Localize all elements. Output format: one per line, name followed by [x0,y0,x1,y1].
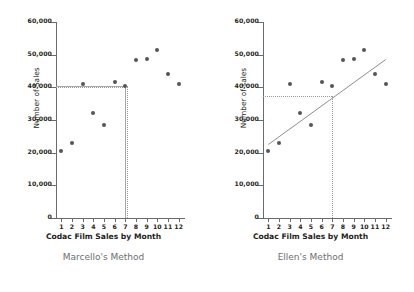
x-tick-label-12-left: 12 [172,223,186,230]
x-axis-title-left: Codac Film Sales by Month [0,232,207,241]
panel-marcellos-method: Number of Sales 0 10,000 20,000 30,000 [0,0,207,292]
data-point [166,72,170,76]
data-point [102,123,106,127]
x-tick-6-left [115,218,116,222]
plot-area-left: 0 10,000 20,000 30,000 40,000 50,000 [56,22,184,218]
y-tick-label-2-left: 20,000 [28,148,52,155]
x-tick-1-left [61,218,62,222]
data-point [341,58,345,62]
y-tick-label-5-left: 50,000 [28,50,52,57]
data-point [70,141,74,145]
data-point [145,57,149,61]
y-tick-label-4-right: 40,000 [235,82,259,89]
y-tick-label-0-left: 0 [48,213,52,220]
x-tick-5-left [104,218,105,222]
data-point [277,141,281,145]
x-tick-3-left [83,218,84,222]
data-point [134,58,138,62]
data-point [288,82,292,86]
panel-caption-right: Ellen's Method [207,252,414,262]
y-tick-label-5-right: 50,000 [235,50,259,57]
prediction-vertical-guide-right [332,96,333,219]
prediction-vertical-guide-dotted-left [127,86,128,218]
prediction-horizontal-guide-right [263,96,332,97]
x-axis-line-left [56,218,185,219]
x-tick-label-12-right: 12 [379,223,393,230]
prediction-horizontal-guide-dotted-left [56,87,125,88]
y-tick-label-4-left: 40,000 [28,82,52,89]
x-tick-11-left [168,218,169,222]
x-tick-10-left [157,218,158,222]
plot-area-right: 0 10,000 20,000 30,000 40,000 50,000 [263,22,391,218]
data-point [352,57,356,61]
two-panel-scatter-figure: Number of Sales 0 10,000 20,000 30,000 [0,0,414,292]
y-tick-label-6-left: 60,000 [28,17,52,24]
x-tick-7-left [125,218,126,222]
y-tick-label-1-left: 10,000 [28,180,52,187]
x-tick-2-left [72,218,73,222]
y-tick-label-1-right: 10,000 [235,180,259,187]
y-tick-label-6-right: 60,000 [235,17,259,24]
data-point [91,111,95,115]
panel-ellens-method: Number of sales 0 10,000 20,000 30,000 4… [207,0,414,292]
y-axis-line-left [56,22,57,218]
y-tick-label-0-right: 0 [255,213,259,220]
data-point [309,123,313,127]
x-tick-12-left [179,218,180,222]
y-tick-label-3-right: 30,000 [235,115,259,122]
panel-caption-left: Marcello's Method [0,252,207,262]
data-point [155,48,159,52]
data-point [177,82,181,86]
x-axis-title-right: Codac Film Sales by Month [207,232,414,241]
y-tick-label-2-right: 20,000 [235,148,259,155]
trendline-right [263,22,392,219]
data-point [81,82,85,86]
x-tick-9-left [147,218,148,222]
data-point [113,80,117,84]
y-tick-label-3-left: 30,000 [28,115,52,122]
x-tick-4-left [93,218,94,222]
x-tick-8-left [136,218,137,222]
data-point [59,149,63,153]
data-point [384,82,388,86]
